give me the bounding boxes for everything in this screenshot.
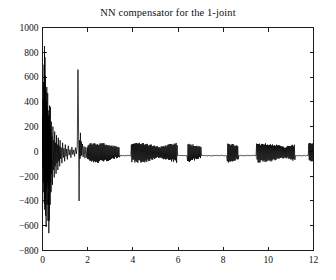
y-tick-label: 600 <box>24 72 39 82</box>
axes-frame <box>43 28 314 251</box>
x-tick-label: 12 <box>309 255 319 265</box>
figure-container: NN compensator for the 1-joint −800−600−… <box>0 0 336 280</box>
x-tick-label: 4 <box>130 255 135 265</box>
y-tick-label: 1000 <box>20 23 39 33</box>
x-tick-label: 10 <box>264 255 274 265</box>
x-axis-tick-labels: 024681012 <box>40 255 318 265</box>
data-series-line-0 <box>43 46 314 233</box>
x-tick-label: 2 <box>85 255 90 265</box>
y-tick-label: 200 <box>24 122 39 132</box>
y-tick-label: −800 <box>19 246 39 256</box>
y-tick-label: 400 <box>24 97 39 107</box>
line-chart-plot: −800−600−400−20002004006008001000 024681… <box>0 0 336 280</box>
x-tick-label: 6 <box>176 255 181 265</box>
y-axis-tick-labels: −800−600−400−20002004006008001000 <box>19 23 39 256</box>
y-tick-label: 800 <box>24 48 39 58</box>
y-tick-label: −200 <box>19 172 39 182</box>
y-tick-label: −400 <box>19 196 39 206</box>
data-series-group <box>43 46 314 233</box>
x-tick-label: 8 <box>221 255 226 265</box>
x-tick-label: 0 <box>40 255 45 265</box>
y-tick-label: −600 <box>19 221 39 231</box>
axis-tick-marks <box>43 28 314 251</box>
y-tick-label: 0 <box>34 147 39 157</box>
